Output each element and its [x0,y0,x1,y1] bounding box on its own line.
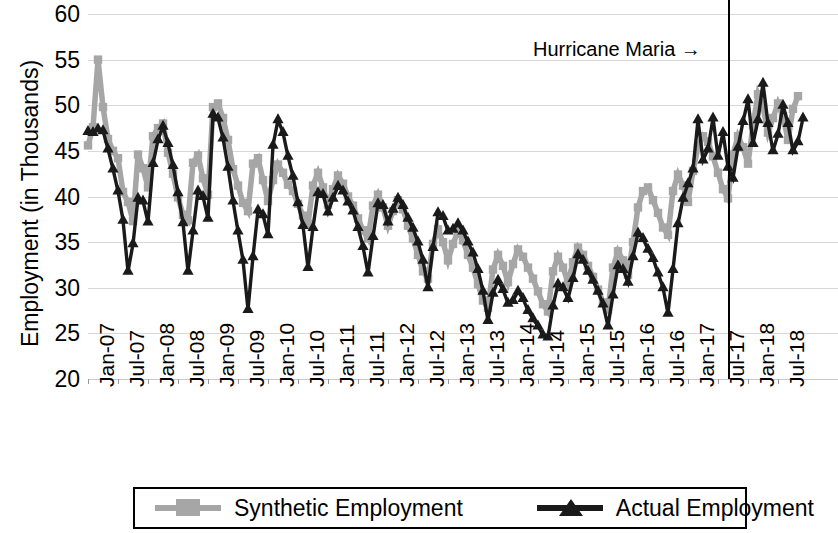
data-point-marker [519,253,527,261]
data-point-marker [559,263,567,271]
data-point-marker [494,251,502,259]
data-point-marker [214,99,222,107]
x-tick-mark [268,379,269,384]
data-point-marker [94,55,102,63]
data-point-marker [482,314,493,324]
data-point-marker [449,240,457,248]
x-tick-mark [538,379,539,384]
data-point-marker [282,150,293,160]
x-tick-mark [478,379,479,384]
x-tick-label: Jul-14 [546,330,567,387]
data-point-marker [189,159,197,167]
data-point-marker [524,263,532,271]
data-point-marker [659,223,667,231]
data-point-marker [247,250,258,260]
x-tick-label: Jul-16 [666,330,687,387]
data-point-marker [452,217,463,227]
data-point-marker [134,150,142,158]
y-tick-label: 50 [26,94,80,117]
x-tick-mark [658,379,659,384]
hurricane-maria-line [728,0,730,379]
x-tick-mark [778,379,779,384]
x-tick-mark [388,379,389,384]
data-point-marker [287,170,298,180]
data-point-marker [554,253,562,261]
data-point-marker [634,203,642,211]
data-point-marker [187,225,198,235]
x-tick-mark [328,379,329,384]
data-point-marker [139,164,147,172]
data-point-marker [644,183,652,191]
data-point-marker [439,238,447,246]
x-tick-mark [118,379,119,384]
data-point-marker [614,247,622,255]
data-point-marker [797,111,808,121]
data-point-marker [142,215,153,225]
data-point-marker [99,103,107,111]
data-point-marker [127,237,138,247]
x-tick-mark [208,379,209,384]
legend-item-actual: Actual Employment [537,495,814,522]
data-point-marker [234,181,242,189]
data-point-marker [499,262,507,270]
data-point-marker [549,267,557,275]
data-point-marker [529,274,537,282]
data-point-marker [674,170,682,178]
x-tick-mark [688,379,689,384]
data-point-marker [202,212,213,222]
data-point-marker [279,169,287,177]
x-tick-mark [598,379,599,384]
data-point-marker [504,278,512,286]
x-tick-mark [178,379,179,384]
data-point-marker [239,199,247,207]
x-tick-mark [718,379,719,384]
data-point-marker [302,261,313,271]
x-tick-label: Jan-12 [396,323,417,387]
legend-swatch-square-icon [155,498,221,518]
data-point-marker [84,141,92,149]
data-point-marker [767,144,778,154]
data-point-marker [662,307,673,317]
data-point-marker [792,135,803,145]
data-point-marker [267,139,278,149]
legend-swatch-triangle-icon [537,498,603,518]
data-point-marker [539,300,547,308]
data-point-marker [117,214,128,224]
x-tick-label: Jan-11 [336,324,357,387]
data-point-marker [259,176,267,184]
data-point-marker [254,154,262,162]
data-point-marker [277,126,288,136]
data-point-marker [657,281,668,291]
x-tick-mark [358,379,359,384]
x-tick-label: Jul-15 [606,330,627,387]
data-point-marker [654,209,662,217]
data-point-marker [672,217,683,227]
y-tick-label: 25 [26,322,80,345]
data-point-marker [602,319,613,329]
x-tick-label: Jan-09 [216,323,237,387]
x-tick-label: Jul-08 [186,330,207,387]
x-tick-mark [748,379,749,384]
data-point-marker [227,194,238,204]
data-point-marker [652,267,663,277]
x-tick-mark [418,379,419,384]
x-tick-label: Jul-13 [486,330,507,387]
hurricane-maria-label: Hurricane Maria → [533,38,701,61]
data-point-marker [649,196,657,204]
data-point-marker [314,169,322,177]
y-tick-label: 20 [26,368,80,391]
y-tick-label: 60 [26,3,80,26]
chart-root: Employment (in Thousands) 20253035404550… [0,0,838,533]
legend-item-synthetic: Synthetic Employment [155,495,463,522]
data-point-marker [772,128,783,138]
data-point-marker [742,93,753,103]
x-tick-label: Jul-17 [726,330,747,387]
data-point-marker [199,174,207,182]
data-point-marker [534,287,542,295]
data-point-marker [444,256,452,264]
data-point-marker [794,92,802,100]
x-tick-label: Jul-18 [786,330,807,387]
data-point-marker [744,159,752,167]
x-tick-label: Jan-07 [96,323,117,387]
x-tick-mark [88,379,89,384]
